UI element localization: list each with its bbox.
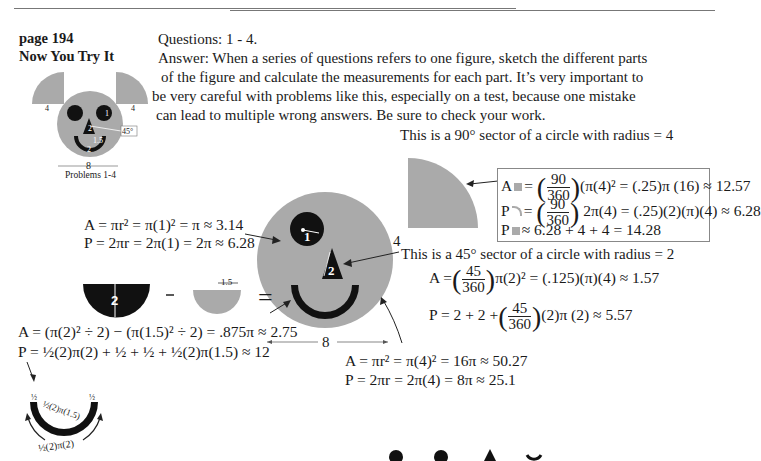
bottom-shapes bbox=[0, 0, 717, 461]
